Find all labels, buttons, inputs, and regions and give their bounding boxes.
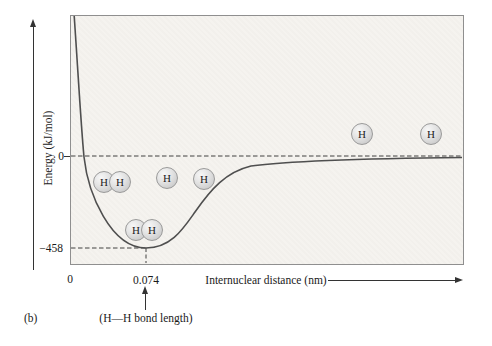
panel-label: (b) bbox=[24, 313, 37, 325]
y-axis-line bbox=[33, 27, 34, 270]
y-tick-min: −458 bbox=[39, 243, 63, 255]
x-axis-line bbox=[328, 280, 456, 281]
x-axis-label: Internuclear distance (nm) bbox=[205, 275, 326, 287]
h-atom-isolated-2: H bbox=[420, 123, 442, 145]
figure-hydrogen-bond-energy: Energy (kJ/mol) 0 −458 H H H H H H H H 0… bbox=[0, 0, 492, 346]
h-atom-letter: H bbox=[148, 224, 156, 236]
y-axis-label: Energy (kJ/mol) bbox=[43, 111, 55, 186]
h-atom-letter: H bbox=[132, 224, 140, 236]
h-atom-isolated-1: H bbox=[351, 123, 373, 145]
y-tick-zero: 0 bbox=[58, 151, 64, 163]
h-atom-letter: H bbox=[116, 176, 124, 188]
bond-length-pointer-line bbox=[145, 293, 146, 310]
h-atom-letter: H bbox=[200, 173, 208, 185]
h-atom-letter: H bbox=[163, 172, 171, 184]
h-atom-letter: H bbox=[427, 128, 435, 140]
y-axis-arrowhead-icon bbox=[30, 19, 36, 27]
h-atom-letter: H bbox=[100, 176, 108, 188]
bond-length-caption: (H—H bond length) bbox=[99, 313, 192, 325]
h-atom-letter: H bbox=[358, 128, 366, 140]
h-atom-bonded-2: H bbox=[141, 219, 163, 241]
x-tick-origin: 0 bbox=[67, 274, 73, 286]
potential-energy-curve bbox=[74, 16, 462, 248]
h-atom-pair-left-2: H bbox=[109, 171, 131, 193]
bond-length-arrowhead-icon bbox=[142, 286, 148, 294]
h-atom-single-2: H bbox=[193, 168, 215, 190]
h-atom-single-1: H bbox=[156, 167, 178, 189]
x-axis-arrowhead-icon bbox=[455, 277, 463, 283]
